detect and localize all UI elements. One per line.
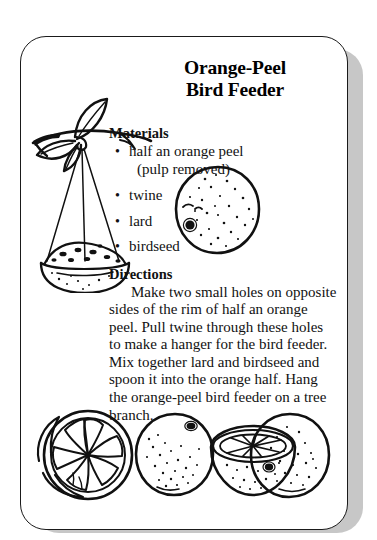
bullet-glyph: •	[115, 143, 120, 161]
card-title-line-1: Orange-Peel	[129, 57, 341, 79]
materials-item-text: twine	[129, 187, 162, 203]
card-title: Orange-Peel Bird Feeder	[129, 57, 341, 101]
bullet-glyph: •	[115, 187, 120, 205]
bullet-glyph: •	[115, 238, 120, 256]
whole-orange-illustration	[171, 163, 267, 263]
recipe-card: Orange-Peel Bird Feeder	[20, 36, 348, 530]
card-title-line-2: Bird Feeder	[129, 79, 341, 101]
bullet-glyph: •	[115, 213, 120, 231]
directions-paragraph: Make two small holes on opposite sides o…	[109, 284, 337, 425]
materials-heading: Materials	[109, 125, 341, 142]
materials-item-text: lard	[129, 213, 152, 229]
directions-heading: Directions	[109, 266, 341, 283]
materials-item-text: half an orange peel	[129, 143, 244, 159]
orange-row-illustration	[33, 405, 333, 510]
